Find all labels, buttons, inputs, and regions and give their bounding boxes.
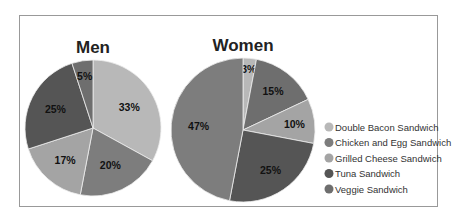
- pie-charts: Men Women 33%20%17%25%5%3%15%10%25%47% D…: [0, 0, 469, 223]
- slice-label: 33%: [119, 101, 141, 113]
- men-title: Men: [76, 38, 110, 57]
- legend-swatch: [325, 123, 334, 132]
- legend-swatch: [325, 185, 334, 194]
- slice-label: 17%: [55, 154, 77, 166]
- slice-label: 25%: [45, 103, 67, 115]
- legend-label: Grilled Cheese Sandwich: [335, 153, 442, 164]
- slice-label: 5%: [77, 70, 93, 82]
- legend-swatch: [325, 154, 334, 163]
- legend: Double Bacon SandwichChicken and Egg San…: [325, 122, 452, 195]
- legend-swatch: [325, 169, 334, 178]
- slice-label: 10%: [284, 118, 306, 130]
- slice-label: 47%: [188, 120, 210, 132]
- legend-label: Tuna Sandwich: [335, 168, 400, 179]
- legend-label: Double Bacon Sandwich: [335, 122, 439, 133]
- legend-swatch: [325, 138, 334, 147]
- legend-label: Chicken and Egg Sandwich: [335, 137, 451, 148]
- legend-label: Veggie Sandwich: [335, 184, 408, 195]
- slice-label: 25%: [260, 164, 282, 176]
- women-title: Women: [212, 36, 273, 55]
- slice-label: 15%: [263, 85, 285, 97]
- slice-label: 20%: [100, 159, 122, 171]
